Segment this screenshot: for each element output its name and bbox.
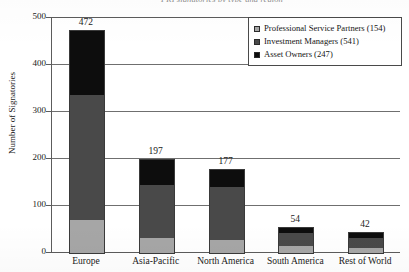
stacked-bar [348, 232, 384, 254]
bar-segment [349, 238, 383, 248]
legend-item: Asset Owners (247) [254, 48, 396, 61]
bar-segment [140, 160, 174, 184]
bar-value-label: 197 [149, 146, 163, 156]
legend-item: Professional Service Partners (154) [254, 22, 396, 35]
stacked-bar [69, 30, 105, 254]
bar-segment [140, 238, 174, 253]
clipped-chart-title: PRI signatories by type and region [104, 0, 340, 2]
x-axis-label: Rest of World [330, 256, 400, 266]
legend-item: Investment Managers (541) [254, 35, 396, 48]
bar-value-label: 42 [360, 219, 370, 229]
legend-swatch-icon [254, 26, 260, 32]
legend-item-label: Investment Managers (541) [264, 37, 359, 46]
x-axis-label: South America [260, 256, 330, 266]
bar-segment [210, 170, 244, 187]
bar-segment [279, 246, 313, 253]
legend-swatch-icon [254, 39, 260, 45]
x-axis-label: Europe [51, 256, 121, 266]
y-tick-label: 200 [6, 153, 46, 162]
y-tick-label: 0 [6, 247, 46, 256]
legend-swatch-icon [254, 52, 260, 58]
y-tick-label: 100 [6, 200, 46, 209]
y-tick-label: 500 [6, 12, 46, 21]
x-axis-label: North America [191, 256, 261, 266]
bar-segment [70, 31, 104, 94]
bar-value-label: 472 [79, 17, 93, 27]
bar-segment [70, 95, 104, 220]
legend-item-label: Professional Service Partners (154) [264, 24, 385, 33]
chart-figure: PRI signatories by type and region Numbe… [0, 0, 409, 272]
bar-value-label: 54 [291, 214, 301, 224]
bar-segment [279, 233, 313, 246]
stacked-bar [209, 169, 245, 254]
bar-segment [70, 220, 104, 253]
y-tick-label: 300 [6, 106, 46, 115]
bar-segment [210, 240, 244, 253]
y-tick-label: 400 [6, 59, 46, 68]
x-axis-label: Asia-Pacific [121, 256, 191, 266]
stacked-bar [278, 227, 314, 254]
bar-value-label: 177 [218, 156, 232, 166]
legend-item-label: Asset Owners (247) [264, 50, 333, 59]
bar-segment [349, 248, 383, 253]
stacked-bar [139, 159, 175, 254]
bar-segment [140, 185, 174, 238]
chart-legend: Professional Service Partners (154)Inves… [248, 17, 402, 66]
bar-segment [210, 187, 244, 240]
